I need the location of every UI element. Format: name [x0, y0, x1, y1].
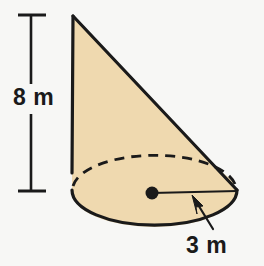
height-label: 8 m	[13, 86, 54, 109]
geometry-figure: 8 m 3 m	[0, 0, 264, 266]
cone-diagram-svg	[0, 0, 264, 266]
center-dot-icon	[146, 187, 159, 200]
radius-label: 3 m	[186, 234, 227, 257]
cone-left-edge	[72, 16, 73, 173]
